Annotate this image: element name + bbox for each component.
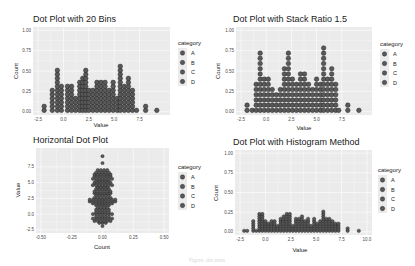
x-tick-label: 7.5: [339, 117, 346, 122]
dot: [101, 224, 104, 227]
chart-title: Dot Plot with Stack Ratio 1.5: [233, 14, 347, 24]
x-tick-label: -2.5: [34, 117, 42, 122]
legend-key-icon: [180, 70, 184, 74]
dot: [314, 77, 319, 82]
dot: [91, 213, 94, 216]
dot: [266, 77, 271, 82]
dot: [286, 66, 291, 71]
legend-title: category: [178, 40, 201, 46]
dot: [333, 87, 338, 92]
x-axis-ticks: -0.50-0.250.000.250.50: [36, 235, 169, 240]
dot: [264, 220, 267, 223]
dot: [329, 77, 334, 82]
x-axis-ticks: -2.50.02.55.07.5: [237, 117, 345, 122]
x-tick-label: 0.0: [263, 117, 270, 122]
dot: [321, 61, 326, 66]
dot: [328, 217, 331, 220]
y-tick-label: 0.50: [225, 69, 234, 74]
dot: [258, 72, 263, 77]
y-axis-label: Count: [213, 185, 219, 201]
legend-key-icon: [180, 51, 184, 55]
dot: [306, 217, 309, 220]
x-tick-label: 5.0: [313, 117, 320, 122]
legend-item-label: D: [391, 206, 395, 212]
dot: [331, 220, 334, 223]
y-tick-label: 0.25: [225, 89, 234, 94]
legend-item-label: B: [391, 187, 395, 193]
dot: [290, 77, 295, 82]
dot: [346, 108, 351, 113]
y-axis-label: Count: [13, 63, 19, 79]
legend-item-label: B: [393, 61, 397, 67]
y-axis-label: Value: [15, 182, 21, 198]
dot: [321, 51, 326, 56]
y-tick-label: 0.75: [224, 170, 233, 175]
dot: [333, 82, 338, 87]
legend-key-icon: [180, 194, 184, 198]
legend-item-label: A: [191, 50, 195, 56]
legend-item-label: A: [393, 51, 397, 57]
legend-key-icon: [380, 206, 384, 210]
legend-title: category: [378, 167, 401, 173]
dot: [258, 66, 263, 71]
dot: [333, 92, 338, 97]
legend-item-label: A: [391, 177, 395, 183]
x-tick-label: 0.50: [160, 235, 169, 240]
legend-key-icon: [382, 52, 386, 56]
dot: [88, 198, 91, 201]
dot: [118, 64, 123, 69]
x-tick-label: 0.0: [60, 117, 67, 122]
panel-dot-plot-stack-ratio: Dot Plot with Stack Ratio 1.5 0.000.250.…: [215, 14, 403, 131]
y-tick-label: -2.5: [26, 227, 34, 232]
dot: [111, 213, 114, 216]
x-tick-label: 0.0: [262, 237, 269, 242]
dot: [59, 84, 64, 89]
legend-item-label: B: [191, 60, 195, 66]
x-tick-label: -2.5: [236, 237, 244, 242]
dot: [258, 51, 263, 56]
dot: [336, 108, 341, 113]
dot: [252, 220, 255, 223]
panel-horizontal-dot-plot: Horizontal Dot Plot -2.50.02.55.07.5 -0.…: [15, 135, 201, 250]
dot: [286, 72, 291, 77]
y-tick-label: 0.50: [224, 190, 233, 195]
dot: [346, 103, 351, 108]
dot: [302, 77, 307, 82]
dot: [245, 108, 250, 113]
dot: [114, 198, 117, 201]
dot: [322, 210, 325, 213]
y-tick-label: 1.00: [22, 28, 31, 33]
chart-title: Dot Plot with Histogram Method: [233, 137, 360, 147]
dot: [42, 104, 47, 109]
dot: [261, 212, 264, 215]
x-tick-label: 7.5: [136, 117, 143, 122]
dot: [245, 229, 248, 232]
y-tick-label: 0.50: [22, 69, 31, 74]
dot: [245, 103, 250, 108]
x-tick-label: 0.25: [129, 235, 138, 240]
legend: categoryABCD: [178, 40, 201, 86]
x-tick-label: 2.5: [288, 117, 295, 122]
x-tick-label: 0.00: [98, 235, 107, 240]
chart-title: Horizontal Dot Plot: [33, 135, 109, 145]
panel-dot-plot-20-bins: Dot Plot with 20 Bins 0.000.250.500.751.…: [13, 14, 201, 128]
legend-key-icon: [380, 197, 384, 201]
dot: [134, 108, 139, 113]
y-tick-label: 2.5: [28, 196, 35, 201]
dot: [321, 46, 326, 51]
dot: [101, 162, 104, 165]
dot: [91, 217, 94, 220]
dot: [288, 212, 291, 215]
y-tick-label: 0.25: [224, 210, 233, 215]
dot: [270, 87, 275, 92]
legend-key-icon: [380, 178, 384, 182]
y-tick-label: 0.00: [224, 229, 233, 234]
x-axis-label: Value: [94, 122, 110, 128]
dot: [143, 104, 148, 109]
dot: [103, 168, 106, 171]
y-tick-label: 0.25: [22, 89, 31, 94]
dot: [69, 84, 74, 89]
legend-key-icon: [380, 187, 384, 191]
x-tick-label: 5.0: [313, 237, 320, 242]
y-tick-label: 1.00: [224, 151, 233, 156]
